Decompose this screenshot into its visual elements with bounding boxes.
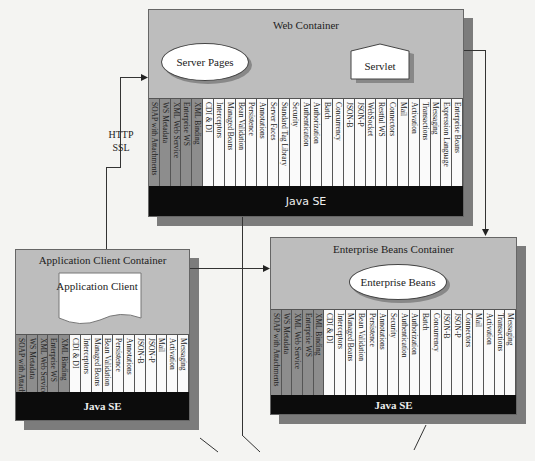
bottom-leader-lines	[0, 0, 535, 461]
